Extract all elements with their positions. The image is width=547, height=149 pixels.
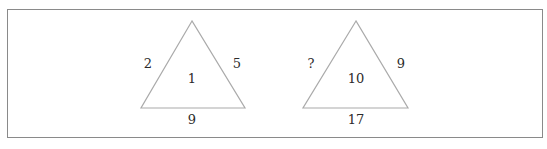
triangle-2-bottom-value: 17 [348, 113, 365, 126]
triangle-2-center-value: 10 [348, 72, 365, 85]
triangle-2-left-value-unknown: ? [308, 57, 315, 70]
triangle-1-center-value: 1 [188, 72, 196, 85]
triangle-1-right-value: 5 [233, 57, 241, 70]
triangle-1-bottom-value: 9 [188, 113, 196, 126]
triangle-1 [141, 21, 245, 108]
triangle-1-left-value: 2 [144, 57, 152, 70]
triangles-figure [0, 0, 547, 149]
triangle-2-right-value: 9 [397, 57, 405, 70]
triangle-2 [303, 21, 408, 108]
